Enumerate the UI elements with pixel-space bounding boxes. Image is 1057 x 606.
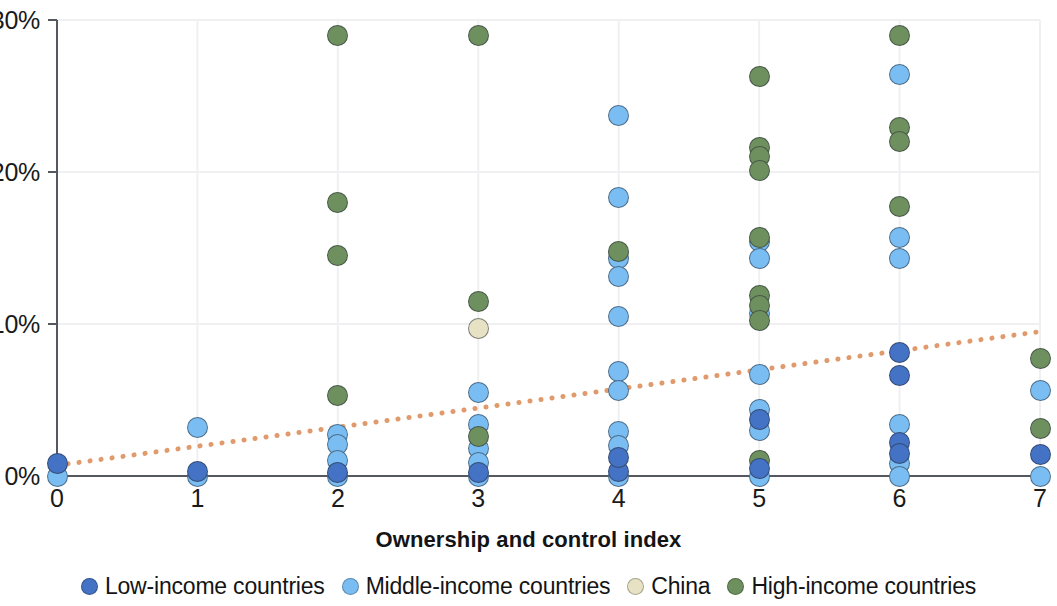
data-point	[889, 466, 910, 487]
legend-swatch-icon	[727, 578, 744, 595]
data-point	[749, 160, 770, 181]
data-point	[749, 458, 770, 479]
x-tick-label: 4	[612, 484, 626, 513]
data-point	[187, 417, 208, 438]
legend-label: High-income countries	[751, 573, 976, 600]
data-point	[1030, 466, 1051, 487]
x-tick-label: 2	[331, 484, 345, 513]
data-point	[468, 25, 489, 46]
y-tick-label: 20%	[0, 158, 40, 187]
x-tick-label: 1	[190, 484, 204, 513]
data-point	[608, 105, 629, 126]
x-axis-title: Ownership and control index	[0, 527, 1057, 553]
data-point	[889, 131, 910, 152]
data-point	[187, 461, 208, 482]
data-point	[468, 318, 489, 339]
data-point	[608, 187, 629, 208]
legend-item[interactable]: China	[627, 573, 710, 600]
data-point	[889, 248, 910, 269]
data-point	[468, 426, 489, 447]
data-point	[749, 364, 770, 385]
data-point	[608, 380, 629, 401]
chart-legend: Low-income countriesMiddle-income countr…	[0, 573, 1057, 600]
data-point	[749, 409, 770, 430]
data-point	[327, 245, 348, 266]
x-tick-label: 3	[471, 484, 485, 513]
legend-item[interactable]: Middle-income countries	[342, 573, 611, 600]
data-point	[749, 66, 770, 87]
data-point	[749, 310, 770, 331]
y-tick-label: 30%	[0, 6, 40, 35]
data-point	[749, 227, 770, 248]
legend-item[interactable]: Low-income countries	[81, 573, 325, 600]
data-point	[47, 453, 68, 474]
data-point	[889, 342, 910, 363]
axis-ticks	[48, 20, 57, 476]
data-point	[468, 382, 489, 403]
data-point	[608, 266, 629, 287]
x-tick-label: 6	[893, 484, 907, 513]
legend-swatch-icon	[81, 578, 98, 595]
legend-label: China	[651, 573, 710, 600]
data-point	[608, 306, 629, 327]
data-point	[889, 196, 910, 217]
data-point	[608, 361, 629, 382]
data-point	[327, 385, 348, 406]
x-tick-label: 7	[1033, 484, 1047, 513]
legend-swatch-icon	[342, 578, 359, 595]
scatter-chart-figure: 0%10%20%30% 01234567 Ownership and contr…	[0, 0, 1057, 606]
data-point	[889, 25, 910, 46]
x-tick-label: 5	[752, 484, 766, 513]
data-point	[889, 443, 910, 464]
data-point	[327, 25, 348, 46]
y-axis-tick-labels: 0%10%20%30%	[0, 0, 40, 606]
data-point	[1030, 418, 1051, 439]
legend-item[interactable]: High-income countries	[727, 573, 976, 600]
data-point	[608, 241, 629, 262]
legend-label: Low-income countries	[105, 573, 325, 600]
data-point	[1030, 380, 1051, 401]
data-point	[889, 365, 910, 386]
data-point	[1030, 348, 1051, 369]
data-point	[1030, 444, 1051, 465]
data-point	[327, 192, 348, 213]
data-point	[749, 248, 770, 269]
data-point	[889, 64, 910, 85]
data-point	[468, 291, 489, 312]
x-tick-label: 0	[50, 484, 64, 513]
y-tick-label: 10%	[0, 310, 40, 339]
plot-area	[57, 20, 1040, 476]
legend-label: Middle-income countries	[366, 573, 611, 600]
y-tick-label: 0%	[4, 462, 40, 491]
legend-swatch-icon	[627, 578, 644, 595]
data-point	[889, 227, 910, 248]
